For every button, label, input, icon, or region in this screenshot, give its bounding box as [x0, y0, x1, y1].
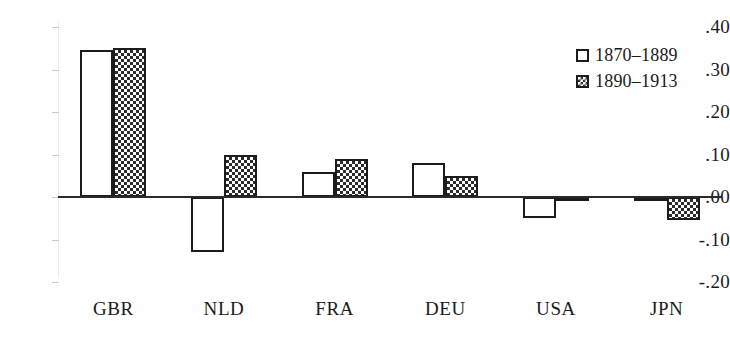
chart-legend: 1870–18891890–1913	[576, 42, 678, 94]
bar-group	[412, 0, 478, 290]
legend-open-square-icon	[576, 49, 589, 62]
x-axis-tick-label: DEU	[390, 298, 500, 320]
bar	[191, 197, 224, 252]
bar-group	[80, 0, 146, 290]
bar	[113, 48, 146, 197]
bar	[445, 176, 478, 197]
legend-checker-square-icon	[576, 75, 589, 88]
x-axis-tick-label: JPN	[612, 298, 722, 320]
legend-item-label: 1870–1889	[595, 46, 678, 64]
bar-chart: .40.30.20.10.00-.10-.20 GBRNLDFRADEUUSAJ…	[0, 0, 730, 353]
x-axis-tick-label: GBR	[58, 298, 168, 320]
bar	[667, 197, 700, 220]
zero-baseline	[58, 196, 722, 198]
x-axis-tick-label: NLD	[169, 298, 279, 320]
bar-group	[191, 0, 257, 290]
bar	[302, 172, 335, 198]
bar	[412, 163, 445, 197]
bar-group	[302, 0, 368, 290]
bar	[523, 197, 556, 218]
legend-item-label: 1890–1913	[595, 72, 678, 90]
legend-item: 1870–1889	[576, 42, 678, 68]
legend-item: 1890–1913	[576, 68, 678, 94]
x-axis-tick-label: USA	[501, 298, 611, 320]
bar	[80, 50, 113, 197]
bar	[224, 155, 257, 198]
x-axis-tick-label: FRA	[280, 298, 390, 320]
bar	[335, 159, 368, 197]
